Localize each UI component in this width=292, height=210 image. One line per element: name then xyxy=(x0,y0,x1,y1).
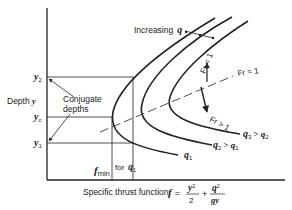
fr-gt-arrow xyxy=(201,87,207,112)
y2-label: y2 xyxy=(33,71,42,83)
curve-q2-label: q2> q1 xyxy=(213,139,239,151)
x-axis-label: Specific thrust function, xyxy=(83,187,171,197)
curve-q3 xyxy=(169,21,248,134)
conjugate-label-line2: depths xyxy=(63,104,89,114)
yc-label: yc xyxy=(33,111,41,123)
increasing-q-label: Increasing q xyxy=(134,19,182,36)
conjugate-label-line1: Conjugate xyxy=(63,94,102,104)
y-axis-label: Depth y xyxy=(7,96,36,106)
curve-q3-label: q3> q2 xyxy=(243,128,269,140)
x-formula-term2-num: q2 xyxy=(212,183,220,193)
conjugate-arrow-y1 xyxy=(49,114,70,141)
x-formula-plus: + xyxy=(202,189,207,199)
curve-q1-label: q1 xyxy=(184,149,193,161)
x-formula-term1-num: y2 xyxy=(187,183,195,193)
specific-thrust-diagram: Depth y y2 yc y1 Conjugate depths Increa… xyxy=(0,0,292,210)
fr-lt-label: Fr < 1 xyxy=(199,51,215,74)
x-formula-term2-den: gy xyxy=(210,195,219,205)
fr-eq-label: Fr = 1 xyxy=(237,66,260,78)
curve-q1 xyxy=(112,18,215,155)
x-formula-lhs: f= xyxy=(168,186,180,198)
fmin-label: fmin xyxy=(94,164,110,178)
y1-label: y1 xyxy=(33,137,42,149)
x-formula-term1-den: 2 xyxy=(189,196,194,205)
